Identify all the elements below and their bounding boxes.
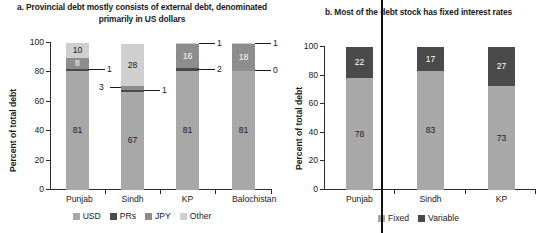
segment-fixed-value: 73 — [497, 134, 507, 143]
segment-variable-value: 27 — [497, 62, 507, 71]
segment-usd: 67 — [121, 92, 144, 190]
panel-a-ytick-label-0: 0 — [39, 185, 44, 194]
segment-usd-value: 81 — [183, 126, 193, 135]
panel-a-ytick-20 — [46, 160, 50, 161]
legend-item-variable[interactable]: Variable — [418, 214, 459, 223]
panel-b-legend: Fixed Variable — [284, 214, 553, 223]
legend-swatch-jpy — [145, 213, 152, 220]
panel-a-ytick-label-20: 20 — [34, 155, 44, 164]
callout-kp-other-value: 1 — [217, 38, 222, 47]
panel-b-plot-area: 0 20 40 60 80 100 78 22 Punjab — [324, 46, 536, 190]
panel-b-xtick-1 — [394, 190, 395, 194]
panel-a-plot-area: 0 20 40 60 80 100 81 8 — [50, 42, 272, 190]
legend-item-prs[interactable]: PRs — [110, 212, 136, 221]
segment-prs — [66, 69, 89, 70]
panel-b-y-axis-line — [324, 46, 325, 190]
segment-fixed: 83 — [417, 71, 444, 190]
panel-a-ytick-label-40: 40 — [34, 126, 44, 135]
segment-variable-value: 17 — [426, 55, 436, 64]
bar-label-sindh: Sindh — [121, 195, 144, 204]
segment-fixed: 78 — [346, 78, 373, 190]
callout-sindh-prs-value: 1 — [162, 85, 167, 94]
segment-jpy: 18 — [232, 44, 255, 70]
panel-b-ytick-label-20: 20 — [308, 156, 318, 165]
legend-item-fixed[interactable]: Fixed — [378, 214, 409, 223]
panel-b-ytick-label-40: 40 — [308, 128, 318, 137]
panel-b-xtick-2 — [465, 190, 466, 194]
legend-label-jpy: JPY — [155, 212, 171, 221]
segment-variable: 17 — [417, 47, 444, 71]
panel-b-title: b. Most of the debt stock has fixed inte… — [284, 7, 553, 19]
segment-fixed-value: 78 — [355, 130, 365, 139]
panel-a-ytick-40 — [46, 130, 50, 131]
segment-prs — [121, 90, 144, 91]
panel-b-ytick-100 — [320, 46, 324, 47]
bar-sindh-rate[interactable]: 83 17 Sindh — [417, 47, 444, 190]
legend-swatch-variable — [418, 215, 425, 222]
segment-variable: 22 — [346, 47, 373, 78]
chart-panel-a: a. Provincial debt mostly consists of ex… — [0, 0, 284, 233]
legend-label-prs: PRs — [120, 212, 136, 221]
bar-label-sindh: Sindh — [417, 195, 444, 204]
panel-a-ytick-label-100: 100 — [30, 38, 44, 47]
segment-other: 10 — [66, 43, 89, 58]
segment-other — [232, 43, 255, 44]
bar-balochistan-currency[interactable]: 81 18 Balochistan — [232, 43, 255, 190]
segment-jpy-value: 16 — [183, 52, 193, 61]
segment-variable-value: 22 — [355, 58, 365, 67]
panel-a-xtick-1 — [105, 190, 106, 194]
callout-kp-prs-value: 2 — [217, 64, 222, 73]
bar-kp-rate[interactable]: 73 27 KP — [488, 47, 515, 190]
bar-label-kp: KP — [176, 195, 199, 204]
chart-panel-b: b. Most of the debt stock has fixed inte… — [284, 0, 553, 233]
segment-jpy: 16 — [176, 44, 199, 68]
segment-jpy-value: 18 — [239, 53, 249, 62]
segment-usd-value: 67 — [128, 136, 138, 145]
legend-label-other: Other — [190, 212, 212, 221]
segment-usd: 81 — [66, 71, 89, 190]
legend-item-jpy[interactable]: JPY — [145, 212, 171, 221]
figure: a. Provincial debt mostly consists of ex… — [0, 0, 553, 233]
bar-label-kp: KP — [488, 195, 515, 204]
legend-item-other[interactable]: Other — [180, 212, 212, 221]
bar-kp-currency[interactable]: 81 16 KP — [176, 43, 199, 190]
panel-a-ytick-0 — [46, 189, 50, 190]
callout-punjab-prs-value: 1 — [107, 64, 112, 73]
panel-a-ytick-100 — [46, 42, 50, 43]
segment-usd-value: 81 — [73, 126, 83, 135]
panel-a-y-axis-line — [50, 42, 51, 190]
panel-a-ytick-label-60: 60 — [34, 97, 44, 106]
panel-b-ytick-0 — [320, 189, 324, 190]
segment-jpy: 8 — [66, 58, 89, 70]
bar-punjab-rate[interactable]: 78 22 Punjab — [346, 47, 373, 190]
panel-a-xtick-2 — [160, 190, 161, 194]
panel-a-title: a. Provincial debt mostly consists of ex… — [0, 2, 284, 25]
segment-usd: 81 — [232, 71, 255, 190]
segment-other-value: 28 — [128, 61, 138, 70]
callout-balochistan-prs-value: 0 — [273, 65, 278, 74]
segment-usd-value: 81 — [239, 126, 249, 135]
legend-label-usd: USD — [83, 212, 101, 221]
bar-sindh-currency[interactable]: 67 28 Sindh — [121, 43, 144, 190]
bar-punjab-currency[interactable]: 81 8 10 Punjab — [66, 43, 89, 190]
bar-label-punjab: Punjab — [66, 195, 89, 204]
segment-jpy-value: 8 — [75, 59, 80, 68]
panel-b-ytick-label-0: 0 — [313, 185, 318, 194]
legend-item-usd[interactable]: USD — [73, 212, 101, 221]
segment-other — [176, 43, 199, 44]
panel-b-xtick-3 — [535, 190, 536, 194]
legend-swatch-prs — [110, 213, 117, 220]
panel-b-ytick-40 — [320, 132, 324, 133]
callout-balochistan-other-value: 1 — [273, 38, 278, 47]
segment-prs — [176, 68, 199, 71]
panel-a-xtick-3 — [215, 190, 216, 194]
segment-usd: 81 — [176, 71, 199, 190]
legend-swatch-usd — [73, 213, 80, 220]
segment-other-value: 10 — [73, 46, 83, 55]
panel-b-ytick-60 — [320, 103, 324, 104]
panel-b-ytick-80 — [320, 75, 324, 76]
panel-b-ytick-label-100: 100 — [304, 42, 318, 51]
segment-other: 28 — [121, 44, 144, 85]
bar-label-punjab: Punjab — [346, 195, 373, 204]
panel-b-ytick-20 — [320, 160, 324, 161]
